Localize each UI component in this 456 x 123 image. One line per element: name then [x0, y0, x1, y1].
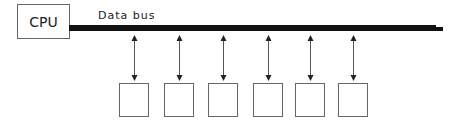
data-bus: Data bus [69, 9, 443, 31]
data-bus-label: Data bus [98, 9, 155, 22]
cpu-label: CPU [29, 14, 57, 30]
device-2 [165, 38, 194, 117]
device-group [120, 38, 368, 117]
device-5 [296, 38, 325, 117]
device-box [120, 84, 149, 117]
device-4 [254, 38, 283, 117]
device-3 [209, 38, 238, 117]
device-box [209, 84, 238, 117]
device-1 [120, 38, 149, 117]
device-box [165, 84, 194, 117]
device-box [296, 84, 325, 117]
device-box [254, 84, 283, 117]
bus-diagram: CPU Data bus [0, 0, 456, 123]
device-box [339, 84, 368, 117]
cpu-block: CPU [18, 5, 70, 39]
device-6 [339, 38, 368, 117]
